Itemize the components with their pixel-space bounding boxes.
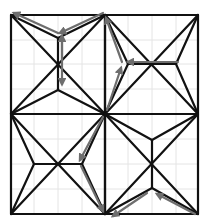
crease-pattern-diagram	[0, 0, 210, 224]
crease-lines	[11, 15, 198, 214]
kite-crease	[152, 188, 198, 214]
kite-crease	[152, 114, 198, 140]
arrow-notch-to-bottom-left	[113, 193, 147, 216]
